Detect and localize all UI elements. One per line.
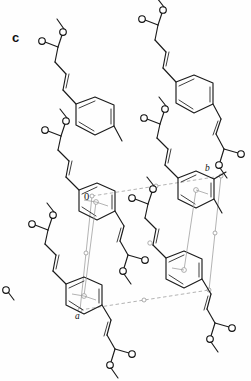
oxygen-atom xyxy=(229,325,236,332)
bond-c-o-double xyxy=(147,119,160,124)
bond-vinyl-c xyxy=(155,40,166,52)
bond-c-o-ester xyxy=(111,349,115,362)
bond-ring-vinyl xyxy=(53,271,66,284)
bond-ring-chain xyxy=(102,305,111,320)
bond-c-o-ester xyxy=(148,192,152,204)
bond-c-o-ester xyxy=(124,255,128,268)
cell-node xyxy=(142,298,146,302)
bond-to-carbonyl xyxy=(145,204,148,218)
bond-chain xyxy=(107,335,115,349)
bond-c-o-double xyxy=(135,199,148,204)
oxygen-atom xyxy=(150,186,157,193)
oxygen-atom xyxy=(162,106,169,113)
bond-vinyl-double xyxy=(56,255,59,269)
bond-vinyl-double xyxy=(156,229,159,243)
cell-node-center xyxy=(148,241,152,245)
oxygen-atom xyxy=(160,7,167,14)
oxygen-atom xyxy=(238,151,245,158)
bond-o-methyl xyxy=(157,0,164,7)
axis-label-b: b xyxy=(205,163,210,173)
bond-chain xyxy=(216,134,224,149)
bond-chain-vinyl xyxy=(216,119,221,134)
bond-c-o-double xyxy=(224,149,238,153)
oxygen-atom xyxy=(142,257,149,264)
benzene-ring xyxy=(76,97,114,135)
bond-chain xyxy=(120,241,128,255)
bond-ring-vinyl xyxy=(63,90,76,104)
bond-vinyl-c xyxy=(145,218,156,229)
bond-o-methyl xyxy=(111,368,118,378)
panel-label: c xyxy=(12,30,19,45)
bond-vinyl-double xyxy=(213,121,218,135)
bond-to-carbonyl xyxy=(55,47,58,62)
bond-c-o-ester xyxy=(211,323,215,336)
bond-c-o-ester xyxy=(58,35,62,47)
bond-c-o-ester xyxy=(158,13,162,25)
bond-o-methyl xyxy=(147,177,154,186)
bond-o-methyl xyxy=(57,19,64,29)
bond-c-o-ester xyxy=(160,112,164,124)
bond-ring-chain xyxy=(115,211,124,226)
oxygen-atom xyxy=(50,212,57,219)
cell-node xyxy=(213,231,217,235)
bond-to-carbonyl xyxy=(58,136,61,150)
bond-vinyl-double xyxy=(66,74,69,88)
bond-to-carbonyl xyxy=(157,124,160,138)
molecule xyxy=(139,0,245,178)
bond-vinyl xyxy=(163,52,166,68)
bond-c-o-double xyxy=(48,131,61,136)
molecule xyxy=(141,97,222,213)
oxygen-atom xyxy=(39,38,46,45)
oxygen-atom xyxy=(141,115,148,122)
oxygen-atom xyxy=(120,268,127,275)
bond-vinyl-c xyxy=(55,62,66,74)
molecule xyxy=(39,19,122,141)
bond-o-methyl xyxy=(211,342,218,352)
bond-vinyl xyxy=(66,161,69,177)
bond-c-o-double xyxy=(145,20,158,25)
bond-ring-chain xyxy=(114,126,122,141)
cell-node xyxy=(90,194,94,198)
bond-o-methyl xyxy=(124,274,131,284)
bond-c-o-ester xyxy=(48,218,52,230)
bond-vinyl xyxy=(165,149,168,165)
bond-ring-vinyl xyxy=(163,68,176,82)
cell-axis-b-line xyxy=(184,190,196,270)
oxygen-atom xyxy=(60,29,67,36)
oxygen-atom xyxy=(107,362,114,369)
bond-c-o-ester xyxy=(220,149,224,162)
oxygen-atom xyxy=(63,118,70,125)
bond-vinyl-c xyxy=(157,138,168,149)
molecule xyxy=(129,177,236,352)
bond-vinyl-c xyxy=(45,244,56,255)
structure-canvas: a b 0 xyxy=(0,0,251,381)
bond-chain xyxy=(207,309,215,323)
crystal-packing-figure: c a b 0 xyxy=(0,0,251,381)
oxygen-atom xyxy=(207,336,214,343)
bond-c-o-double xyxy=(215,323,229,327)
bond-vinyl-double xyxy=(168,149,171,163)
bond-c-o-double xyxy=(115,349,129,353)
oxygen-atom xyxy=(129,351,136,358)
bond-ring-chain xyxy=(213,104,221,119)
bond-ring-vinyl xyxy=(153,245,166,258)
bond-c-o-ester xyxy=(61,124,65,136)
oxygen-atom xyxy=(3,287,10,294)
bond-o-methyl xyxy=(47,203,54,212)
bond-vinyl-double xyxy=(69,161,72,175)
oxygen-atom xyxy=(29,221,36,228)
oxygen-atom xyxy=(129,195,136,202)
oxygen-atom xyxy=(216,162,223,169)
bond-ring-vinyl xyxy=(66,177,79,190)
bond-to-carbonyl xyxy=(45,230,48,244)
bond-vinyl xyxy=(153,229,156,245)
bond-vinyl-c xyxy=(58,150,69,161)
bond-o-methyl xyxy=(159,97,166,106)
benzene-ring xyxy=(176,75,213,113)
bond-o-methyl xyxy=(60,109,67,118)
bond-ring-vinyl xyxy=(165,165,178,178)
bond-c-o-double xyxy=(35,225,48,230)
bond-c-o-double xyxy=(128,255,142,259)
oxygen-atom xyxy=(42,127,49,134)
bond-vinyl xyxy=(63,74,66,90)
